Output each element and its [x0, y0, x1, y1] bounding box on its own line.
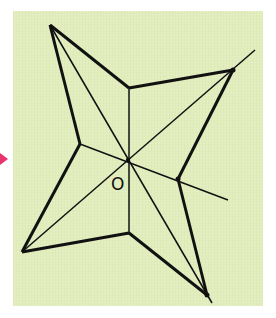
center-point: [126, 158, 130, 162]
edge-rightinner-lowerright: [178, 179, 207, 295]
diagonal-upperright-lowerleft: [22, 50, 255, 252]
edge-bottominner-lowerleft: [22, 233, 129, 252]
edge-topleft-topinner: [50, 25, 129, 88]
internal-lines: [22, 25, 255, 303]
center-label: O: [111, 174, 124, 194]
edge-topinner-upperright: [129, 70, 233, 88]
edge-upperright-rightinner: [178, 70, 233, 179]
edge-lowerleft-leftinner: [22, 144, 80, 252]
rightinner-point: [176, 177, 181, 182]
upperright-point: [231, 68, 236, 73]
axis-horizontal: [80, 144, 228, 200]
lowerright-point: [205, 293, 210, 298]
star-figure: O: [0, 0, 276, 318]
edge-leftinner-topleft: [50, 25, 80, 144]
